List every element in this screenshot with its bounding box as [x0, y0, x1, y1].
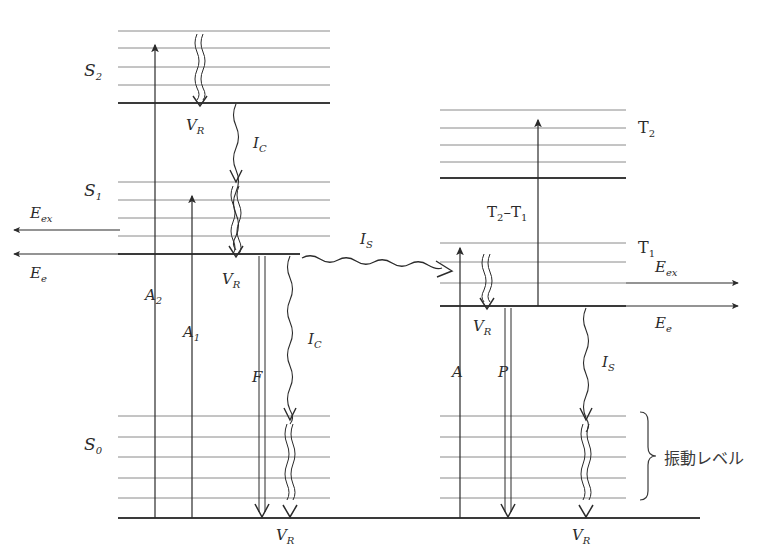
- label-vr-bottom-right: VR: [572, 526, 591, 546]
- label-is-t1-s0: IS: [601, 353, 615, 373]
- label-vr-t1: VR: [473, 317, 492, 337]
- t2-vibrational-levels: [440, 110, 626, 162]
- label-t2-t1-transition: T2–T1: [487, 203, 527, 223]
- label-t2: T2: [638, 118, 655, 139]
- label-vr-s2: VR: [186, 116, 205, 136]
- label-f: F: [251, 368, 263, 386]
- label-ic-s1-s0: IC: [307, 330, 322, 350]
- label-ee-right: Ee: [654, 314, 672, 334]
- transition-arrow-is-crossing: [302, 256, 452, 277]
- label-ic-s2-s1: IC: [252, 134, 267, 154]
- label-a2: A2: [143, 286, 162, 306]
- label-vibrational-levels: 振動レベル: [664, 449, 744, 468]
- s0-vibrational-levels-right: [440, 416, 626, 498]
- label-s1: S1: [84, 180, 102, 202]
- transition-arrow-ic-s2-s1: [230, 104, 242, 250]
- t1-vibrational-levels: [440, 243, 626, 283]
- s1-vibrational-levels: [118, 182, 330, 236]
- label-is-crossing: IS: [359, 230, 373, 250]
- s2-vibrational-levels: [118, 31, 330, 85]
- diagram-svg: S2 S1 S0 T2 T1 VR VR VR VR VR IC IC IS I…: [0, 0, 764, 552]
- label-a1: A1: [181, 323, 200, 343]
- label-vr-s1: VR: [222, 270, 241, 290]
- transition-arrow-is-t1-s0: [579, 308, 593, 517]
- transition-arrow-vr-s2: [193, 34, 207, 106]
- vibrational-levels-brace: [640, 412, 656, 500]
- transition-arrow-vr-s1: [229, 186, 243, 257]
- label-t1: T1: [638, 238, 655, 259]
- jablonski-diagram-canvas: S2 S1 S0 T2 T1 VR VR VR VR VR IC IC IS I…: [0, 0, 764, 552]
- label-p: P: [497, 363, 509, 381]
- singlet-manifold: [118, 31, 330, 498]
- label-vr-bottom-left: VR: [276, 526, 295, 546]
- label-eex-right: Eex: [654, 258, 678, 278]
- s0-vibrational-levels: [118, 416, 330, 498]
- label-s2: S2: [84, 60, 102, 82]
- triplet-manifold: [440, 110, 626, 498]
- label-a: A: [450, 363, 463, 381]
- transition-arrow-p: [501, 308, 515, 517]
- label-s0: S0: [84, 434, 103, 456]
- label-eex-left: Eex: [29, 204, 53, 224]
- label-ee-left: Ee: [29, 264, 47, 284]
